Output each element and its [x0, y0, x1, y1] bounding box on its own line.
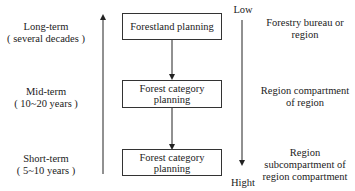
- box-forest-category-planning-1: Forest categoryplanning: [122, 80, 222, 108]
- box-text: planning: [139, 163, 204, 174]
- box-forest-category-planning-2: Forest categoryplanning: [122, 149, 222, 176]
- right-label-compartment: Region compartment of region: [256, 85, 354, 109]
- term-label: Long-term: [6, 21, 86, 33]
- left-label-short-term: Short-term ( 5~10 years ): [6, 153, 86, 177]
- right-text: region: [256, 29, 354, 41]
- right-text: Region: [256, 147, 354, 159]
- scale-high-label: Hight: [230, 177, 256, 189]
- span-label: ( 10~20 years ): [6, 98, 86, 110]
- box-text: Forest category: [139, 83, 204, 94]
- span-label: ( several decades ): [6, 33, 86, 45]
- right-label-bureau: Forestry bureau or region: [256, 17, 354, 41]
- scale-low-label: Low: [232, 4, 254, 16]
- right-label-subcompartment: Region subcompartment of region compartm…: [256, 147, 354, 183]
- box-text: Forestland planning: [130, 21, 214, 32]
- span-label: ( 5~10 years ): [6, 165, 86, 177]
- right-text: region compartment: [256, 171, 354, 183]
- term-label: Short-term: [6, 153, 86, 165]
- box-text: Forest category: [139, 152, 204, 163]
- right-text: subcompartment of: [256, 159, 354, 171]
- box-text: planning: [139, 94, 204, 105]
- right-text: of region: [256, 97, 354, 109]
- box-forestland-planning: Forestland planning: [122, 13, 222, 40]
- right-text: Forestry bureau or: [256, 17, 354, 29]
- left-label-mid-term: Mid-term ( 10~20 years ): [6, 86, 86, 110]
- left-label-long-term: Long-term ( several decades ): [6, 21, 86, 45]
- term-label: Mid-term: [6, 86, 86, 98]
- right-text: Region compartment: [256, 85, 354, 97]
